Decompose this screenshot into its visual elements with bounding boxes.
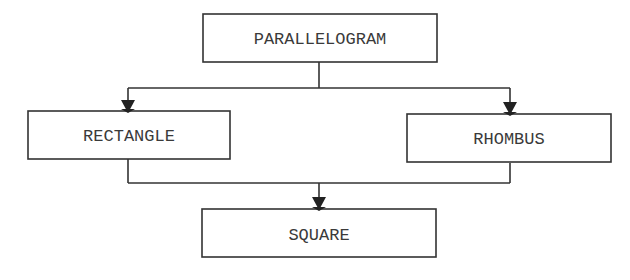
connector-bottom [128, 159, 510, 197]
connector-top [128, 62, 510, 102]
node-parallelogram: PARALLELOGRAM [203, 14, 437, 62]
node-label: RECTANGLE [83, 127, 175, 146]
quadrilateral-hierarchy-diagram: PARALLELOGRAM RECTANGLE RHOMBUS SQUARE [0, 0, 630, 280]
node-label: SQUARE [288, 226, 349, 245]
node-label: PARALLELOGRAM [254, 30, 387, 49]
node-rhombus: RHOMBUS [407, 114, 611, 162]
node-rectangle: RECTANGLE [28, 111, 230, 159]
node-label: RHOMBUS [473, 130, 544, 149]
node-square: SQUARE [202, 209, 436, 257]
